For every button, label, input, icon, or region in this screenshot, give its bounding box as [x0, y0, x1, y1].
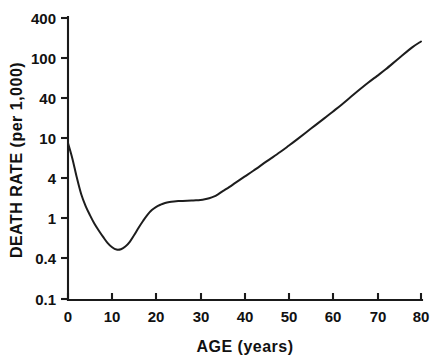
- death-rate-vs-age-line-chart: 400 100 40 10 4 1 0.4 0.1 0 10 20 30 40 …: [0, 0, 438, 364]
- y-axis-title: DEATH RATE (per 1,000): [8, 62, 25, 258]
- x-tick-label-60: 60: [325, 308, 342, 325]
- y-tick-label-0.4: 0.4: [35, 250, 57, 267]
- x-tick-label-30: 30: [193, 308, 210, 325]
- x-tick-label-50: 50: [281, 308, 298, 325]
- y-tick-label-1: 1: [48, 210, 56, 227]
- y-tick-label-40: 40: [39, 90, 56, 107]
- y-tick-label-0.1: 0.1: [35, 291, 56, 308]
- death-rate-curve: [68, 41, 421, 249]
- chart-figure: 400 100 40 10 4 1 0.4 0.1 0 10 20 30 40 …: [0, 0, 438, 364]
- x-tick-label-70: 70: [370, 308, 387, 325]
- x-tick-label-80: 80: [413, 308, 430, 325]
- y-tick-label-100: 100: [31, 50, 56, 67]
- y-tick-label-4: 4: [48, 170, 57, 187]
- x-tick-label-40: 40: [237, 308, 254, 325]
- x-tick-label-20: 20: [148, 308, 165, 325]
- y-tick-label-10: 10: [39, 130, 56, 147]
- x-axis-title: AGE (years): [196, 338, 293, 355]
- y-tick-label-400: 400: [31, 10, 56, 27]
- x-tick-label-10: 10: [104, 308, 121, 325]
- x-tick-label-0: 0: [64, 308, 72, 325]
